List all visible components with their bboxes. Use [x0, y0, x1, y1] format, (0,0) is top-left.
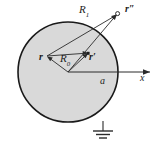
label-x-axis: x: [140, 73, 144, 83]
label-radius-a: a: [100, 76, 105, 86]
label-R0-base: R: [60, 52, 67, 64]
label-R0: R0: [60, 53, 70, 67]
point-marker-rdprime: [116, 12, 120, 16]
label-R1-subscript: 1: [86, 11, 89, 18]
label-R0-subscript: 0: [67, 60, 70, 67]
label-R1: R1: [79, 4, 89, 18]
sphere-diagram: [0, 0, 158, 143]
label-R1-base: R: [79, 3, 86, 15]
label-r: r: [39, 52, 43, 62]
label-r-prime: r′: [89, 52, 96, 62]
label-r-double-prime: r″: [125, 4, 134, 14]
